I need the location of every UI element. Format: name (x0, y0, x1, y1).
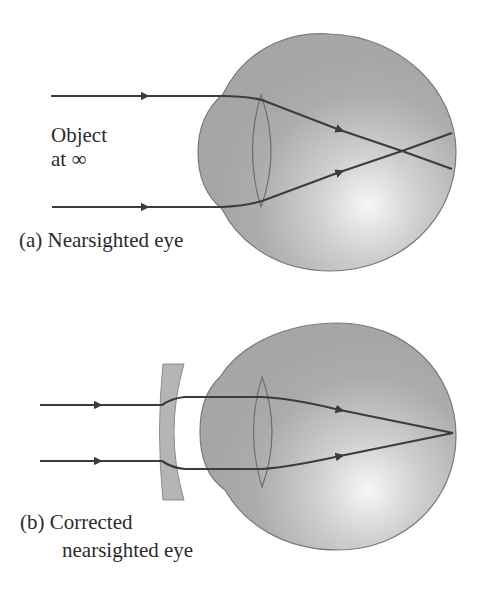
corrective-concave-lens (160, 364, 185, 500)
eyeball-a (198, 34, 456, 271)
caption-b-line2: nearsighted eye (62, 540, 193, 561)
diagram-canvas (0, 0, 484, 591)
object-label-line1: Object (51, 125, 107, 146)
caption-b-line1: (b) Corrected (20, 512, 133, 533)
caption-a: (a) Nearsighted eye (19, 230, 183, 251)
object-label-line2: at ∞ (51, 149, 86, 170)
eyeball-b (200, 323, 456, 550)
